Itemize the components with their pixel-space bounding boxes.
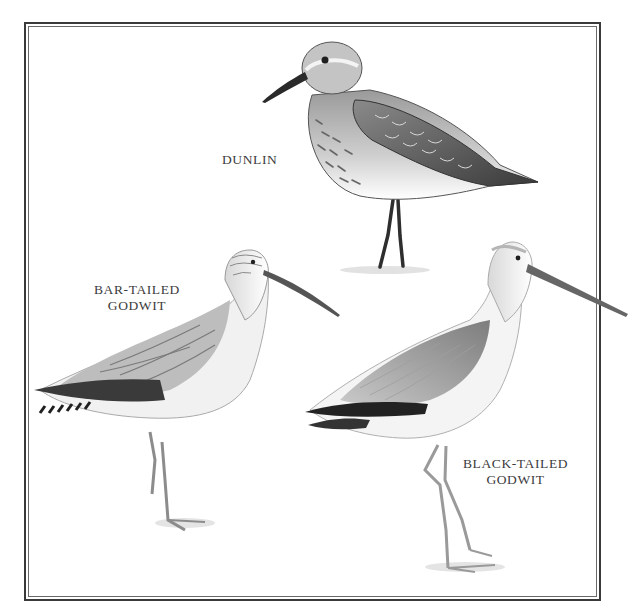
- black-tailed-godwit-illustration: [305, 242, 628, 572]
- label-black-tailed-godwit: BLACK-TAILED GODWIT: [463, 456, 568, 488]
- label-bar-tailed-godwit: BAR-TAILED GODWIT: [94, 282, 180, 314]
- dunlin-illustration: [262, 42, 538, 274]
- bar-tailed-godwit-illustration: [34, 250, 340, 530]
- label-line: GODWIT: [463, 472, 568, 488]
- label-line: DUNLIN: [222, 152, 277, 168]
- label-line: BAR-TAILED: [94, 282, 180, 298]
- label-dunlin: DUNLIN: [222, 152, 277, 168]
- label-line: GODWIT: [94, 298, 180, 314]
- label-line: BLACK-TAILED: [463, 456, 568, 472]
